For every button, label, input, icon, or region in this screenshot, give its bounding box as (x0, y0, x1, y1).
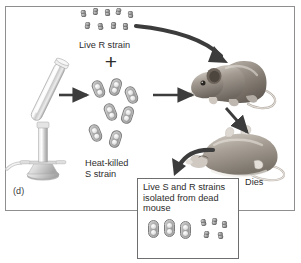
plus-sign: + (101, 52, 121, 72)
dies-label: Dies (245, 177, 263, 188)
inset-s-strain-bacteria (148, 218, 196, 248)
inset-r-strain-bacteria (200, 218, 234, 248)
inset-caption: Live S and R strains isolated from dead … (143, 182, 225, 214)
panel-label-d: (d) (13, 186, 24, 196)
result-inset-box: Live S and R strains isolated from dead … (137, 178, 239, 259)
live-r-strain-bacteria (80, 8, 142, 36)
live-r-strain-label: Live R strain (79, 40, 130, 51)
figure-panel-d: Live R strain + Heat-killed S strain Die… (0, 0, 301, 263)
heat-killed-s-strain-label: Heat-killed S strain (85, 158, 128, 179)
heat-killed-s-strain-bacteria (90, 76, 150, 156)
